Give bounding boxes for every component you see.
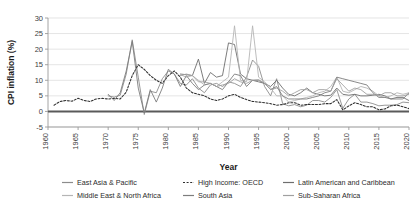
y-tick-label: 5 bbox=[39, 91, 43, 100]
series-line-latin-american-and-caribbean bbox=[180, 43, 409, 101]
legend-label-1[interactable]: East Asia & Pacific bbox=[77, 178, 137, 187]
y-tick-label: -5 bbox=[36, 123, 43, 132]
cpi-inflation-chart: -505101520253019601965197019751980198519… bbox=[0, 0, 417, 213]
legend-label-2[interactable]: High Income: OECD bbox=[198, 178, 263, 187]
x-tick-label: 2015 bbox=[372, 133, 381, 150]
legend-label-5[interactable]: South Asia bbox=[198, 191, 232, 200]
x-axis-title: Year bbox=[220, 162, 239, 172]
x-tick-label: 1975 bbox=[131, 133, 140, 150]
x-tick-label: 1985 bbox=[191, 133, 200, 150]
x-tick-label: 1980 bbox=[161, 133, 170, 150]
x-tick-label: 1990 bbox=[222, 133, 231, 150]
y-tick-label: 30 bbox=[35, 14, 43, 23]
y-tick-label: 20 bbox=[35, 45, 43, 54]
y-tick-label: 10 bbox=[35, 76, 43, 85]
legend-label-4[interactable]: Middle East & North Africa bbox=[77, 191, 161, 200]
legend-label-6[interactable]: Sub-Saharan Africa bbox=[298, 191, 360, 200]
x-tick-label: 1970 bbox=[101, 133, 110, 150]
y-tick-label: 25 bbox=[35, 29, 43, 38]
legend-label-3[interactable]: Latin American and Caribbean bbox=[298, 178, 395, 187]
x-tick-label: 1960 bbox=[41, 133, 50, 150]
series-line-middle-east-north-africa bbox=[180, 26, 409, 102]
x-tick-label: 2005 bbox=[312, 133, 321, 150]
x-tick-label: 1995 bbox=[252, 133, 261, 150]
y-tick-label: 0 bbox=[39, 107, 43, 116]
chart-canvas: -505101520253019601965197019751980198519… bbox=[0, 0, 417, 213]
y-tick-label: 15 bbox=[35, 60, 43, 69]
x-tick-label: 1965 bbox=[71, 133, 80, 150]
x-tick-label: 2010 bbox=[342, 133, 351, 150]
series-line-high-income-oecd bbox=[54, 65, 409, 110]
x-tick-label: 2000 bbox=[282, 133, 291, 150]
x-tick-label: 2020 bbox=[402, 133, 411, 150]
y-axis-title: CPI inflation (%) bbox=[6, 40, 16, 105]
